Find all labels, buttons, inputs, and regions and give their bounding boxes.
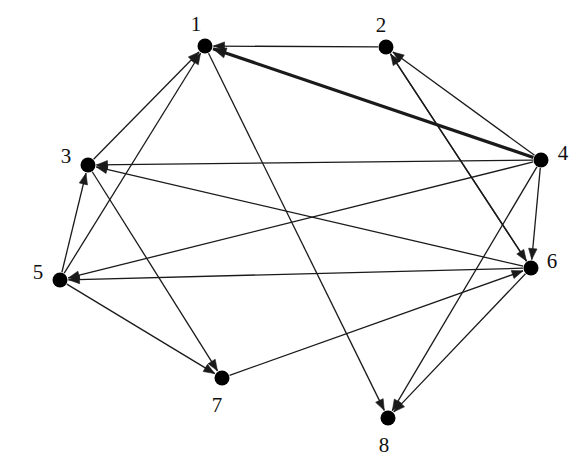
- graph-node-6[interactable]: [524, 261, 539, 276]
- graph-node-8[interactable]: [381, 411, 396, 426]
- node-label-4: 4: [558, 141, 569, 165]
- graph-node-7[interactable]: [215, 371, 230, 386]
- arrowhead-icon: [68, 271, 80, 279]
- edge-4-to-8: [392, 167, 537, 411]
- edge-line: [92, 172, 217, 371]
- edge-3-to-1: [94, 52, 199, 159]
- edge-5-to-7: [67, 284, 215, 373]
- graph-node-5[interactable]: [53, 273, 68, 288]
- arrowhead-icon: [376, 399, 385, 411]
- graph-node-3[interactable]: [81, 158, 96, 173]
- edge-line: [69, 268, 524, 280]
- arrowhead-icon: [529, 248, 537, 259]
- edge-line: [209, 53, 385, 410]
- edge-1-to-8: [209, 53, 385, 410]
- edge-line: [94, 52, 199, 159]
- edges-layer: [62, 42, 540, 412]
- edge-4-to-2: [393, 52, 535, 155]
- edge-line: [390, 54, 526, 261]
- directed-graph-figure: 12345678: [0, 0, 586, 476]
- edge-line: [68, 162, 533, 278]
- edge-line: [67, 284, 215, 373]
- arrowhead-icon: [79, 173, 87, 185]
- edge-2-to-1: [214, 42, 379, 50]
- edge-2-to-6: [390, 54, 526, 261]
- edge-4-to-1: [213, 48, 533, 157]
- graph-node-1[interactable]: [198, 39, 213, 54]
- node-label-8: 8: [379, 433, 390, 457]
- arrowhead-icon: [96, 165, 108, 173]
- edge-line: [532, 168, 540, 260]
- node-label-6: 6: [547, 249, 558, 273]
- edge-4-to-6: [529, 168, 541, 260]
- edge-4-to-3: [97, 160, 534, 169]
- graph-canvas: 12345678: [0, 0, 586, 476]
- edge-6-to-5: [69, 268, 524, 284]
- node-label-3: 3: [61, 144, 72, 168]
- edge-4-to-5: [68, 162, 533, 279]
- edge-line: [393, 52, 535, 155]
- edge-line: [96, 167, 523, 266]
- node-label-5: 5: [33, 260, 44, 284]
- edge-6-to-8: [394, 274, 526, 412]
- node-label-2: 2: [376, 13, 387, 37]
- node-label-7: 7: [212, 393, 223, 417]
- graph-node-2[interactable]: [379, 40, 394, 55]
- arrowhead-icon: [517, 249, 527, 261]
- graph-node-4[interactable]: [534, 153, 549, 168]
- edge-line: [214, 46, 379, 47]
- node-label-1: 1: [191, 12, 202, 36]
- edge-3-to-7: [92, 172, 217, 371]
- edge-line: [394, 274, 526, 412]
- arrowhead-icon: [213, 48, 227, 58]
- edge-line: [213, 49, 533, 158]
- arrowhead-icon: [511, 271, 523, 279]
- edge-line: [97, 160, 534, 165]
- nodes-layer: [53, 39, 549, 426]
- edge-line: [392, 167, 537, 411]
